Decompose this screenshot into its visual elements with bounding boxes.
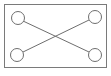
crossed-connection-diagram xyxy=(0,0,111,76)
node-bottom-right xyxy=(89,49,102,62)
node-top-right xyxy=(89,11,102,24)
node-top-left xyxy=(12,12,25,25)
node-bottom-left xyxy=(11,49,24,62)
